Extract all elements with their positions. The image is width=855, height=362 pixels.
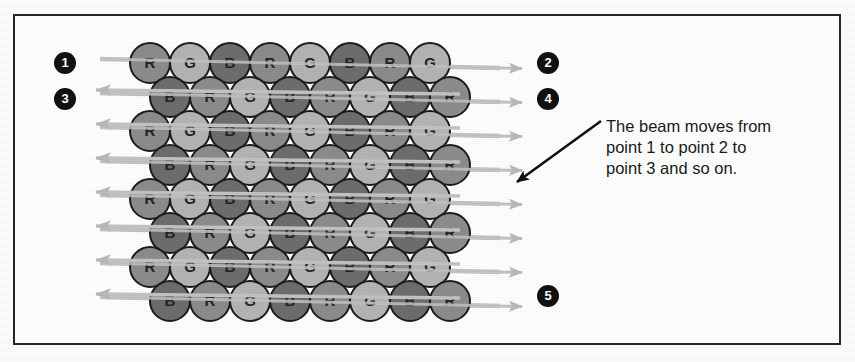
phosphor-dot-label: R — [325, 88, 336, 105]
crt-beam-scan-figure: RGBRGBRGBRGBRGBRRGBRGBRGBRGBRGBRRGBRGBRG… — [0, 0, 855, 362]
phosphor-dot-label: G — [424, 190, 436, 207]
phosphor-dot-label: B — [345, 54, 356, 71]
phosphor-dot-label: B — [345, 122, 356, 139]
beam-arrow-right-icon — [500, 102, 522, 103]
phosphor-dot-label: G — [424, 258, 436, 275]
annotation-line-3: point 3 and so on. — [606, 158, 836, 179]
annotation-leader-arrow-icon — [517, 121, 601, 182]
point-badge-4: 4 — [537, 88, 559, 110]
phosphor-dot-label: B — [405, 292, 416, 309]
phosphor-dot-label: B — [405, 156, 416, 173]
point-badge-3: 3 — [54, 88, 76, 110]
phosphor-dot-label: B — [405, 88, 416, 105]
phosphor-dot-label: R — [325, 224, 336, 241]
phosphor-dot-label: G — [364, 292, 376, 309]
phosphor-dot-label: B — [345, 190, 356, 207]
annotation-text: The beam moves from point 1 to point 2 t… — [606, 116, 836, 179]
phosphor-dot-label: R — [385, 258, 396, 275]
point-badge-2: 2 — [537, 52, 559, 74]
beam-arrow-right-icon — [500, 136, 522, 137]
phosphor-dot-label: G — [364, 88, 376, 105]
beam-arrow-right-icon — [500, 306, 522, 307]
annotation-line-2: point 1 to point 2 to — [606, 137, 836, 158]
phosphor-dot-label: R — [385, 54, 396, 71]
phosphor-dot-label: R — [325, 156, 336, 173]
phosphor-dot-label: R — [145, 54, 156, 71]
beam-arrow-right-icon — [500, 204, 522, 205]
beam-arrow-right-icon — [500, 238, 522, 239]
point-badge-1: 1 — [54, 52, 76, 74]
phosphor-dot-label: R — [385, 122, 396, 139]
phosphor-dot-label: R — [325, 292, 336, 309]
annotation-line-1: The beam moves from — [606, 116, 836, 137]
phosphor-dot-label: R — [385, 190, 396, 207]
beam-arrow-right-icon — [500, 170, 522, 171]
beam-arrow-right-icon — [500, 68, 522, 69]
phosphor-dot-label: G — [424, 54, 436, 71]
beam-arrow-right-icon — [500, 272, 522, 273]
phosphor-dot-label: B — [405, 224, 416, 241]
phosphor-dot-label: G — [364, 224, 376, 241]
phosphor-dot-grid: RGBRGBRGBRGBRGBRRGBRGBRGBRGBRGBRRGBRGBRG… — [130, 43, 470, 321]
diagram-canvas: RGBRGBRGBRGBRGBRRGBRGBRGBRGBRGBRRGBRGBRG… — [0, 0, 855, 362]
point-badge-5: 5 — [537, 285, 559, 307]
phosphor-dot-label: G — [364, 156, 376, 173]
phosphor-dot-label: B — [345, 258, 356, 275]
phosphor-dot-label: G — [424, 122, 436, 139]
